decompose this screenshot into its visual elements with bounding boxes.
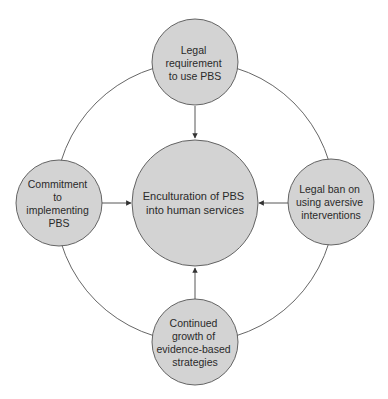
node-label-line: Continued — [170, 317, 218, 329]
node-label-line: implementing — [26, 204, 89, 216]
node-label-line: to use PBS — [169, 70, 222, 82]
node-label-line: PBS — [48, 217, 69, 229]
node-label-line: Legal ban on — [299, 183, 360, 195]
center-label-line: into human services — [146, 204, 244, 216]
node-label-line: interventions — [301, 209, 361, 221]
node-label-line: growth of — [172, 330, 215, 342]
node-commitment: Commitment to implementing PBS — [16, 160, 102, 246]
node-label-line: evidence-based — [156, 343, 230, 355]
node-label-line: requirement — [166, 57, 222, 69]
node-continued-growth: Continued growth of evidence-based strat… — [152, 299, 238, 385]
node-legal-requirement: Legal requirement to use PBS — [152, 19, 238, 105]
pbs-enculturation-diagram: Enculturation of PBS into human services… — [0, 0, 388, 399]
node-label-line: Legal — [181, 44, 207, 56]
node-label-line: Commitment — [28, 178, 88, 190]
node-legal-ban: Legal ban on using aversive intervention… — [288, 159, 374, 245]
node-label-line: using aversive — [296, 196, 363, 208]
node-label-line: to — [53, 191, 62, 203]
center-label-line: Enculturation of PBS — [143, 190, 245, 202]
center-node: Enculturation of PBS into human services — [132, 140, 258, 266]
svg-text:Legal ban on using avers: Legal ban on using aversive intervention… — [296, 183, 366, 221]
node-label-line: strategies — [172, 356, 218, 368]
